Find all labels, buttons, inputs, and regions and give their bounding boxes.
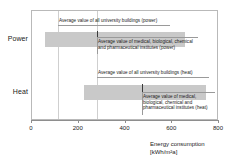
x-tick-label-400: 400	[110, 125, 140, 131]
annotation-power-institutes-average: Average value of medical, biological, ch…	[98, 39, 198, 50]
university-average-line-power	[58, 11, 59, 119]
x-tick-label-200: 200	[63, 125, 93, 131]
annotation-power-university-average: Average value of all university building…	[59, 18, 157, 24]
x-tick-400	[125, 120, 126, 123]
x-tick-600	[171, 120, 172, 123]
x-tick-800	[218, 120, 219, 123]
chart-container: Power Heat Average value of all universi…	[0, 0, 252, 163]
annotation-heat-university-average: Average value of all university building…	[98, 70, 193, 76]
annotation-leader-heat-university	[97, 77, 209, 78]
category-label-power: Power	[2, 35, 28, 42]
x-tick-label-800: 800	[203, 125, 233, 131]
annotation-leader-power-university	[58, 25, 170, 26]
x-axis-title: Energy consumption [kWh/m²a]	[150, 140, 205, 156]
x-tick-0	[31, 120, 32, 123]
category-label-heat: Heat	[2, 88, 28, 95]
university-average-line-heat	[97, 11, 98, 119]
annotation-leader-h-power-institutes	[97, 37, 198, 38]
annotation-heat-institutes-average: Average value of medical, biological, ch…	[143, 94, 215, 111]
x-tick-label-0: 0	[16, 125, 46, 131]
annotation-leader-h-heat-institutes	[142, 92, 215, 93]
x-tick-label-600: 600	[156, 125, 186, 131]
x-tick-200	[78, 120, 79, 123]
x-axis-title-line1: Energy consumption	[150, 140, 205, 148]
x-axis-title-line2: [kWh/m²a]	[150, 148, 205, 156]
